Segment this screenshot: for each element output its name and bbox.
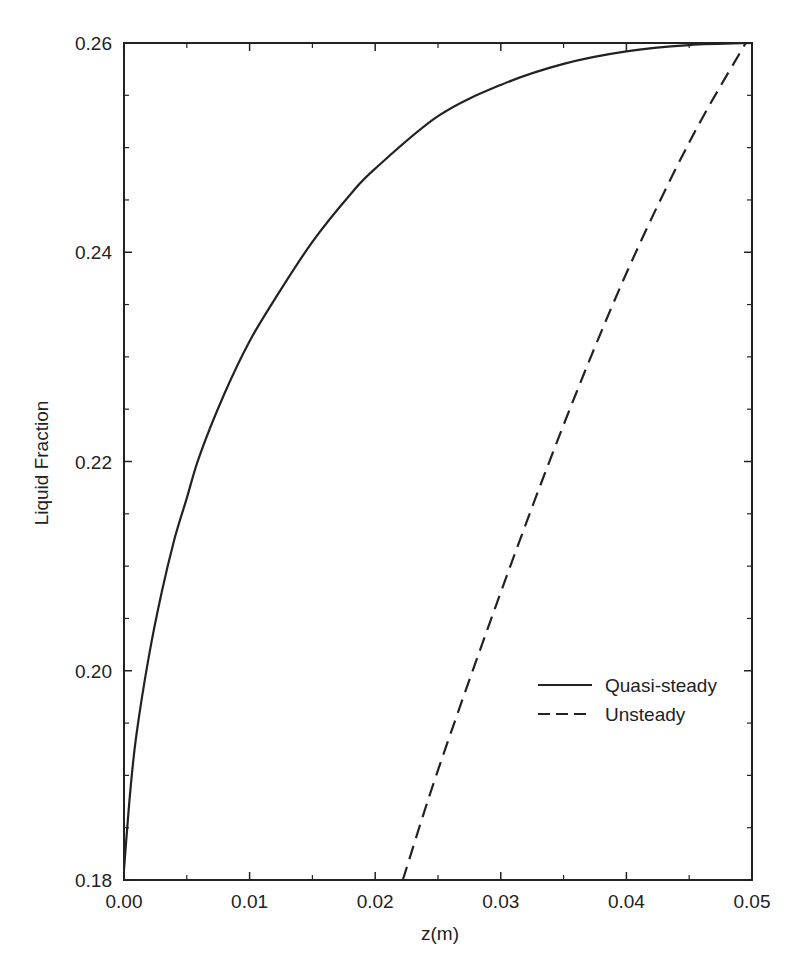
legend-label: Quasi-steady	[605, 675, 717, 696]
x-tick-label: 0.00	[106, 891, 143, 912]
y-tick-label: 0.24	[75, 242, 112, 263]
legend-item-quasi-steady: Quasi-steady	[538, 675, 717, 696]
y-axis-ticks: 0.180.200.220.240.26	[75, 33, 752, 891]
x-tick-label: 0.03	[482, 891, 519, 912]
y-tick-label: 0.20	[75, 661, 112, 682]
plot-border	[124, 43, 752, 880]
x-tick-label: 0.04	[608, 891, 645, 912]
x-axis-title: z(m)	[421, 923, 459, 944]
y-axis-title: Liquid Fraction	[31, 401, 52, 526]
y-tick-label: 0.22	[75, 452, 112, 473]
plot-frame	[124, 43, 752, 880]
legend-item-unsteady: Unsteady	[538, 704, 686, 725]
line-chart: 0.000.010.020.030.040.05 0.180.200.220.2…	[0, 0, 801, 973]
x-tick-label: 0.05	[734, 891, 771, 912]
series-unsteady	[403, 43, 746, 880]
legend: Quasi-steady Unsteady	[538, 675, 717, 725]
series-quasi-steady	[124, 43, 752, 870]
legend-label: Unsteady	[605, 704, 686, 725]
x-tick-label: 0.01	[231, 891, 268, 912]
x-axis-ticks: 0.000.010.020.030.040.05	[106, 43, 771, 912]
y-tick-label: 0.26	[75, 33, 112, 54]
x-tick-label: 0.02	[357, 891, 394, 912]
y-tick-label: 0.18	[75, 870, 112, 891]
series-layer	[124, 43, 752, 880]
